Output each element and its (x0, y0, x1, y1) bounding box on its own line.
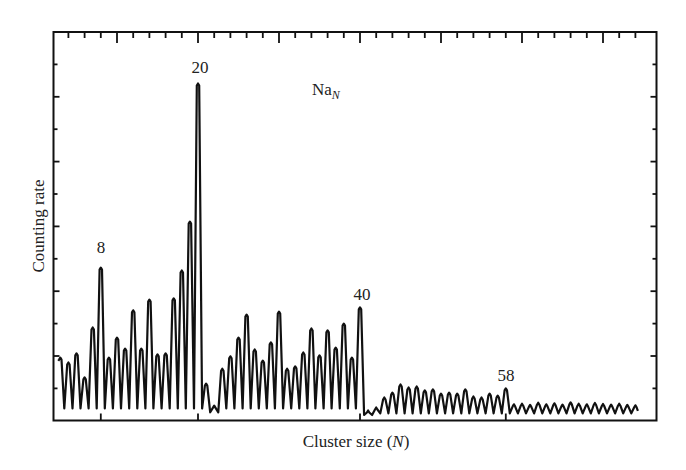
spectrum-curve (58, 84, 638, 416)
peak-label-20: 20 (192, 58, 209, 77)
mass-spectrum-chart: 8 20 40 58 NaN Counting rate Cluster siz… (0, 0, 686, 470)
x-axis-label: Cluster size (N) (303, 432, 410, 451)
peak-label-8: 8 (97, 238, 106, 257)
y-axis-label: Counting rate (29, 179, 48, 272)
peak-label-58: 58 (498, 366, 515, 385)
species-label: NaN (312, 80, 341, 102)
peak-label-40: 40 (354, 285, 371, 304)
